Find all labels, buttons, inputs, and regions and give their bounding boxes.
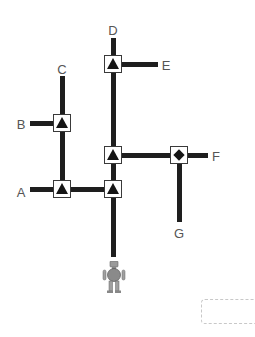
diamond-icon	[173, 149, 184, 160]
label-b: B	[17, 118, 26, 131]
label-a: A	[17, 186, 26, 199]
triangle-icon	[56, 183, 68, 194]
junction-node-mid	[104, 146, 122, 164]
track-left-vertical	[60, 76, 65, 189]
label-d: D	[108, 24, 117, 37]
robot-icon	[102, 261, 126, 293]
track-a-branch	[30, 187, 113, 192]
triangle-icon	[107, 149, 119, 160]
label-c: C	[57, 63, 66, 76]
junction-node-b	[53, 114, 71, 132]
triangle-icon	[107, 58, 119, 69]
label-f: F	[212, 150, 220, 163]
answer-input-box[interactable]	[201, 299, 255, 324]
triangle-icon	[56, 117, 68, 128]
junction-node-bottom-left	[53, 180, 71, 198]
track-g-branch	[177, 155, 182, 222]
label-e: E	[162, 59, 171, 72]
junction-node-bottom-right	[104, 180, 122, 198]
triangle-icon	[107, 183, 119, 194]
junction-node-f	[170, 146, 188, 164]
junction-node-top	[104, 55, 122, 73]
track-f-branch	[113, 153, 208, 158]
label-g: G	[174, 227, 184, 240]
